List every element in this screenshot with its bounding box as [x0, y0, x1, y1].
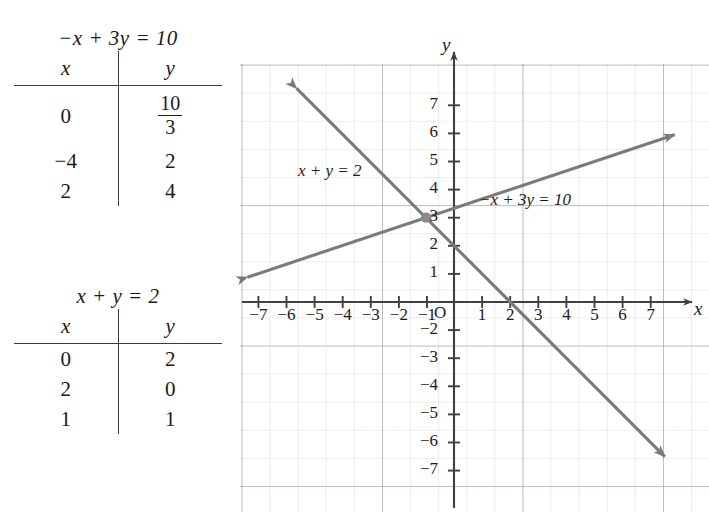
- y-tick-label-3: 3: [404, 206, 438, 226]
- cell-x: −4: [14, 146, 118, 176]
- y-tick-label-neg7: −7: [396, 459, 438, 479]
- x-tick-label-2: 2: [496, 305, 524, 325]
- y-tick-label-neg3: −3: [396, 347, 438, 367]
- column-header-x: x: [14, 51, 118, 86]
- y-tick-label-7: 7: [404, 94, 438, 114]
- solution-table-eq1: x y 0 10 3 −4 2 2 4: [14, 51, 222, 206]
- x-tick-label-6: 6: [609, 305, 637, 325]
- coordinate-graph: y x O −7 −6 −5 −4 −3 −2 −1 1 2 3 4 5 6 7…: [236, 0, 709, 512]
- x-tick-label-neg3: −3: [357, 305, 385, 325]
- solution-table-eq2: x y 0 2 2 0 1 1: [14, 309, 222, 434]
- cell-y: 0: [118, 374, 222, 404]
- x-tick-label-1: 1: [468, 305, 496, 325]
- cell-y: 2: [118, 146, 222, 176]
- table-row: 1 1: [14, 404, 222, 434]
- line-x-plus-y-equals-2: [297, 88, 665, 456]
- y-tick-label-neg5: −5: [396, 403, 438, 423]
- cell-x: 0: [14, 86, 118, 146]
- table-block-eq1: −x + 3y = 10 x y 0 10 3 −4 2: [0, 26, 236, 206]
- y-tick-label-4: 4: [404, 178, 438, 198]
- table-title-eq2: x + y = 2: [0, 284, 236, 309]
- x-axis-label: x: [694, 298, 702, 320]
- x-tick-label-7: 7: [637, 305, 665, 325]
- table-header-row: x y: [14, 51, 222, 86]
- fraction: 10 3: [158, 93, 182, 138]
- table-row: 0 10 3: [14, 86, 222, 146]
- cell-x: 0: [14, 344, 118, 374]
- column-header-y: y: [118, 51, 222, 86]
- table-title-eq1: −x + 3y = 10: [0, 26, 236, 51]
- x-tick-label-neg6: −6: [273, 305, 301, 325]
- table-row: −4 2: [14, 146, 222, 176]
- cell-y: 4: [118, 176, 222, 206]
- tables-panel: −x + 3y = 10 x y 0 10 3 −4 2: [0, 0, 236, 512]
- column-header-x: x: [14, 309, 118, 344]
- column-header-y: y: [118, 309, 222, 344]
- y-tick-label-neg4: −4: [396, 375, 438, 395]
- fraction-numerator: 10: [158, 93, 182, 114]
- cell-x: 2: [14, 374, 118, 404]
- x-tick-label-4: 4: [552, 305, 580, 325]
- fraction-denominator: 3: [158, 117, 182, 138]
- y-tick-label-neg6: −6: [396, 431, 438, 451]
- plotted-lines: [248, 88, 675, 456]
- y-tick-label-2: 2: [404, 234, 438, 254]
- table-row: 0 2: [14, 344, 222, 374]
- x-tick-label-neg7: −7: [244, 305, 272, 325]
- table-row: 2 4: [14, 176, 222, 206]
- x-tick-label-3: 3: [524, 305, 552, 325]
- y-tick-label-1: 1: [404, 262, 438, 282]
- y-tick-label-neg2: −2: [396, 319, 438, 339]
- y-axis-label: y: [442, 34, 450, 56]
- y-tick-label-6: 6: [404, 122, 438, 142]
- x-tick-label-neg5: −5: [301, 305, 329, 325]
- cell-x: 2: [14, 176, 118, 206]
- table-row: 2 0: [14, 374, 222, 404]
- cell-y: 1: [118, 404, 222, 434]
- cell-y: 2: [118, 344, 222, 374]
- y-tick-label-5: 5: [404, 150, 438, 170]
- x-tick-label-5: 5: [581, 305, 609, 325]
- line-neg-x-plus-3y-equals-10: [248, 135, 675, 277]
- axes: [242, 52, 692, 508]
- line-label-neg-x-plus-3y: −x + 3y = 10: [479, 190, 571, 210]
- graph-drawing-layer: [236, 0, 709, 512]
- cell-x: 1: [14, 404, 118, 434]
- table-header-row: x y: [14, 309, 222, 344]
- x-tick-label-neg4: −4: [329, 305, 357, 325]
- cell-y-fraction: 10 3: [118, 86, 222, 146]
- line-label-x-plus-y: x + y = 2: [298, 161, 362, 181]
- table-block-eq2: x + y = 2 x y 0 2 2 0 1 1: [0, 284, 236, 434]
- graph-svg: [236, 0, 709, 512]
